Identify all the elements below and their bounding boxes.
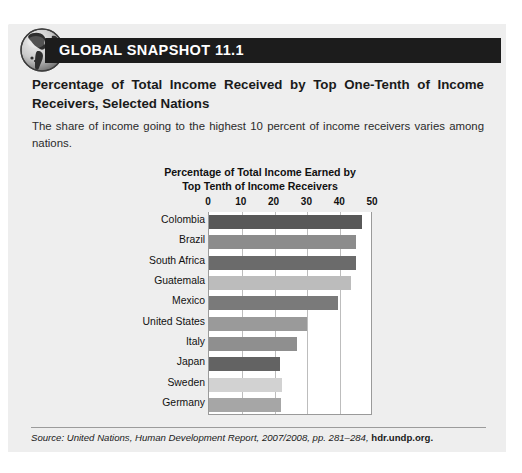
- bar: [209, 337, 297, 351]
- x-tick-label: 30: [301, 196, 312, 207]
- bar-category-label: Brazil: [179, 234, 205, 245]
- bar: [209, 317, 307, 331]
- bar: [209, 378, 282, 392]
- bar-row: Brazil: [209, 235, 373, 249]
- bar-chart: 01020304050 ColombiaBrazilSouth AfricaGu…: [106, 196, 386, 418]
- source-url: hdr.undp.org.: [371, 432, 433, 443]
- x-tick-label: 50: [366, 196, 377, 207]
- x-tick-label: 10: [235, 196, 246, 207]
- bar: [209, 357, 280, 371]
- footer-divider: [31, 427, 486, 428]
- bar-row: Japan: [209, 357, 373, 371]
- bar-category-label: Sweden: [167, 377, 205, 388]
- bar-category-label: Guatemala: [154, 275, 205, 286]
- chart-title-line-1: Percentage of Total Income Earned by: [140, 166, 380, 180]
- x-tick-label: 40: [334, 196, 345, 207]
- bar-row: Colombia: [209, 215, 373, 229]
- bar-row: South Africa: [209, 256, 373, 270]
- source-text: Source: United Nations, Human Developmen…: [31, 432, 371, 443]
- figure-headline: Percentage of Total Income Received by T…: [32, 76, 484, 114]
- bar: [209, 296, 338, 310]
- bar-category-label: Italy: [186, 336, 205, 347]
- figure-subtext: The share of income going to the highest…: [32, 118, 484, 151]
- chart-title: Percentage of Total Income Earned by Top…: [140, 166, 380, 194]
- bar: [209, 235, 356, 249]
- plot-area: ColombiaBrazilSouth AfricaGuatemalaMexic…: [208, 212, 372, 415]
- bar-category-label: United States: [143, 316, 205, 327]
- bar: [209, 215, 362, 229]
- bar-category-label: Mexico: [172, 295, 205, 306]
- x-axis-tick-labels: 01020304050: [106, 196, 386, 212]
- bar-row: Italy: [209, 337, 373, 351]
- bar: [209, 256, 356, 270]
- source-note: Source: United Nations, Human Developmen…: [31, 432, 491, 443]
- x-tick-label: 0: [205, 196, 211, 207]
- bar-row: United States: [209, 317, 373, 331]
- snapshot-header-title: GLOBAL SNAPSHOT 11.1: [59, 42, 244, 58]
- bar-category-label: Germany: [162, 397, 205, 408]
- bar-category-label: South Africa: [149, 255, 205, 266]
- x-tick-label: 20: [268, 196, 279, 207]
- bar-row: Germany: [209, 398, 373, 412]
- bar-category-label: Japan: [177, 356, 205, 367]
- bar-category-label: Colombia: [161, 214, 205, 225]
- bar-row: Sweden: [209, 378, 373, 392]
- bar-row: Guatemala: [209, 276, 373, 290]
- global-snapshot-figure: GLOBAL SNAPSHOT 11.1 Percentage of Total…: [0, 0, 522, 473]
- bar-row: Mexico: [209, 296, 373, 310]
- bar: [209, 276, 351, 290]
- snapshot-header-band: GLOBAL SNAPSHOT 11.1: [45, 38, 501, 63]
- chart-title-line-2: Top Tenth of Income Receivers: [140, 180, 380, 194]
- bar: [209, 398, 281, 412]
